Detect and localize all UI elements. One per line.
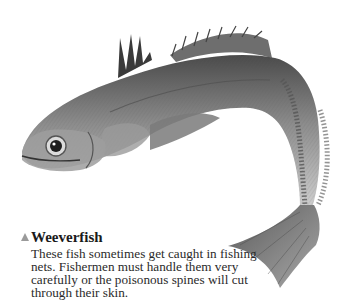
caption-title: Weeverfish	[31, 229, 103, 245]
triangle-up-icon	[21, 233, 29, 241]
fish-head	[22, 130, 106, 172]
caption-title-row: Weeverfish	[20, 229, 320, 245]
caption: Weeverfish These fish sometimes get caug…	[20, 229, 320, 300]
caption-body: These fish sometimes get caught in fishi…	[31, 248, 276, 300]
